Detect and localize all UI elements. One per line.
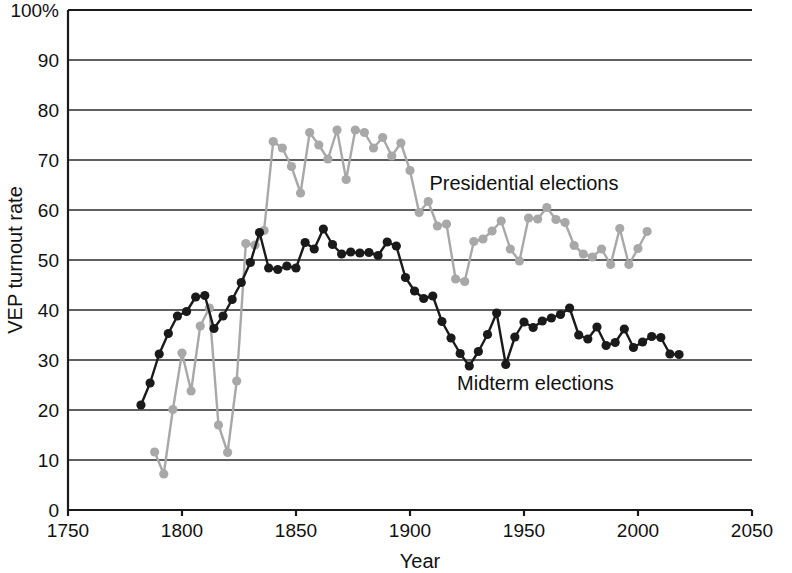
data-point — [647, 332, 656, 341]
data-point — [465, 361, 474, 370]
data-point — [551, 215, 560, 224]
data-point — [433, 221, 442, 230]
data-point — [401, 273, 410, 282]
data-point — [319, 224, 328, 233]
data-point — [565, 303, 574, 312]
y-tick-label: 100% — [10, 0, 59, 21]
data-point — [332, 125, 341, 134]
data-point — [592, 322, 601, 331]
data-point — [629, 343, 638, 352]
data-point — [478, 234, 487, 243]
data-point — [305, 128, 314, 137]
data-point — [200, 291, 209, 300]
data-point — [278, 143, 287, 152]
data-point — [643, 227, 652, 236]
data-point — [529, 323, 538, 332]
data-point — [218, 311, 227, 320]
data-point — [547, 313, 556, 322]
data-point — [497, 216, 506, 225]
data-point — [310, 244, 319, 253]
data-point — [620, 324, 629, 333]
data-point — [606, 260, 615, 269]
y-tick-label: 30 — [38, 350, 59, 371]
data-point — [437, 317, 446, 326]
turnout-line-chart: 0102030405060708090100% 1750180018501900… — [0, 0, 792, 573]
chart-container: 0102030405060708090100% 1750180018501900… — [0, 0, 792, 573]
data-point — [337, 249, 346, 258]
x-axis-title: Year — [400, 550, 441, 572]
data-point — [364, 248, 373, 257]
data-point — [615, 224, 624, 233]
data-point — [191, 292, 200, 301]
data-point — [209, 324, 218, 333]
data-point — [446, 333, 455, 342]
series-label-midterm: Midterm elections — [457, 372, 614, 394]
data-point — [538, 316, 547, 325]
data-point — [346, 247, 355, 256]
data-point — [442, 219, 451, 228]
data-point — [223, 448, 232, 457]
data-point — [456, 349, 465, 358]
data-point — [269, 137, 278, 146]
data-point — [232, 376, 241, 385]
data-point — [556, 310, 565, 319]
grid-lines — [68, 60, 752, 460]
data-point — [460, 277, 469, 286]
x-tick-labels: 1750180018501900195020002050 — [47, 510, 773, 541]
data-point — [624, 260, 633, 269]
x-tick-label: 1850 — [275, 520, 317, 541]
data-point — [674, 350, 683, 359]
data-point — [483, 330, 492, 339]
data-point — [273, 265, 282, 274]
data-point — [168, 405, 177, 414]
data-point — [506, 244, 515, 253]
data-point — [255, 228, 264, 237]
data-point — [633, 244, 642, 253]
data-point — [410, 286, 419, 295]
data-point — [387, 151, 396, 160]
data-point — [145, 378, 154, 387]
data-point — [597, 244, 606, 253]
data-point — [524, 213, 533, 222]
y-tick-label: 40 — [38, 300, 59, 321]
data-point — [501, 360, 510, 369]
data-point — [611, 338, 620, 347]
data-point — [474, 347, 483, 356]
data-point — [196, 321, 205, 330]
data-point — [177, 348, 186, 357]
data-point — [237, 278, 246, 287]
data-point — [419, 294, 428, 303]
data-point — [173, 311, 182, 320]
y-tick-label: 90 — [38, 50, 59, 71]
data-point — [515, 256, 524, 265]
data-point — [214, 420, 223, 429]
y-axis-title: VEP turnout rate — [4, 186, 26, 334]
series-label-presidential: Presidential elections — [430, 172, 619, 194]
data-point — [164, 329, 173, 338]
data-point — [328, 240, 337, 249]
y-tick-label: 70 — [38, 150, 59, 171]
y-tick-label: 60 — [38, 200, 59, 221]
x-tick-label: 1750 — [47, 520, 89, 541]
data-point — [373, 251, 382, 260]
x-tick-label: 1900 — [389, 520, 431, 541]
data-point — [378, 133, 387, 142]
data-point — [469, 237, 478, 246]
data-point — [638, 337, 647, 346]
data-point — [405, 166, 414, 175]
data-point — [415, 208, 424, 217]
data-point — [355, 248, 364, 257]
data-point — [392, 241, 401, 250]
data-point — [396, 138, 405, 147]
data-point — [428, 291, 437, 300]
data-point — [579, 249, 588, 258]
y-tick-label: 80 — [38, 100, 59, 121]
x-tick-label: 2000 — [617, 520, 659, 541]
data-point — [314, 140, 323, 149]
y-tick-label: 0 — [48, 500, 59, 521]
data-point — [301, 238, 310, 247]
data-point — [228, 295, 237, 304]
data-point — [342, 175, 351, 184]
data-point — [287, 162, 296, 171]
data-point — [296, 188, 305, 197]
